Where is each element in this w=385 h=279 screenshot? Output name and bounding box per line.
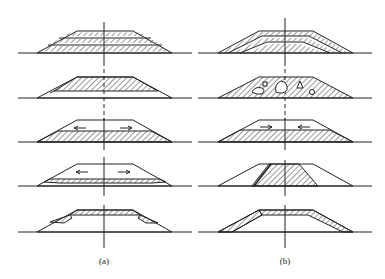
section-b4 bbox=[198, 160, 372, 196]
section-a5 bbox=[18, 205, 192, 248]
section-a4 bbox=[18, 157, 192, 196]
section-a1 bbox=[18, 22, 192, 62]
section-a2 bbox=[18, 62, 192, 120]
label-b: (b) bbox=[280, 256, 291, 266]
section-b5 bbox=[198, 205, 372, 248]
section-a3 bbox=[18, 118, 192, 150]
label-a: (a) bbox=[99, 256, 109, 266]
section-b2 bbox=[198, 62, 372, 120]
embankment-diagram bbox=[0, 0, 385, 279]
section-b1 bbox=[198, 18, 372, 62]
section-b3 bbox=[198, 118, 372, 150]
